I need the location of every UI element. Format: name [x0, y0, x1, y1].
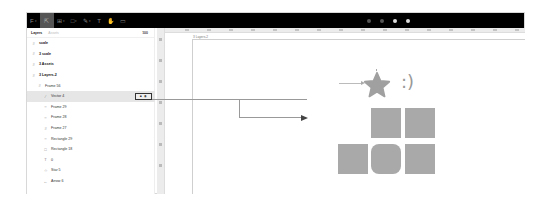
frame-icon: # [43, 126, 48, 131]
zoom-level[interactable]: 100 [142, 31, 148, 35]
layer-item[interactable]: ☆Star 5 [27, 165, 155, 176]
rectangle-shape[interactable] [371, 108, 401, 138]
star-icon[interactable] [363, 71, 391, 99]
vector-icon: ⁄ [43, 94, 48, 99]
move-tool-button[interactable]: ⇱ [40, 13, 54, 28]
design-canvas[interactable]: 3 Layers-2 :) [165, 33, 525, 194]
layer-item[interactable]: ○Frame 29 [27, 102, 155, 113]
layer-actions: ■ ◉ [135, 93, 152, 100]
frame-icon: # [31, 73, 36, 78]
rounded-rectangle-shape[interactable] [371, 144, 401, 174]
hand-tool-button[interactable]: ✋ [104, 13, 117, 28]
component-icon[interactable] [380, 19, 384, 23]
toolbar-center-controls [367, 13, 410, 28]
shape-tool-button[interactable]: □▾ [68, 13, 81, 28]
layer-item[interactable]: #scale [27, 38, 155, 49]
smiley-text[interactable]: :) [401, 71, 414, 92]
layer-item[interactable]: #3 Layers-2 [27, 70, 155, 81]
vertical-ruler[interactable] [157, 28, 165, 194]
comment-tool-button[interactable]: ▭ [117, 13, 129, 28]
connector-line [152, 99, 307, 100]
arrowhead-icon [301, 115, 308, 121]
layer-item[interactable]: ←Arrow 6 [27, 176, 155, 187]
layer-item[interactable]: #3 scale [27, 49, 155, 60]
mask-icon[interactable] [367, 19, 371, 23]
tab-layers[interactable]: Layers [31, 31, 42, 35]
layer-item-selected[interactable]: ⁄Vector 4 ■ ◉ [27, 91, 155, 102]
tab-assets[interactable]: Assets [48, 31, 59, 35]
text-icon: T [43, 157, 48, 162]
layer-item[interactable]: T0 [27, 155, 155, 166]
top-toolbar: F▾ ⇱ ⊞▾ □▾ ✎▾ T ✋ ▭ [27, 13, 524, 28]
frame-icon: # [31, 41, 36, 46]
layer-item[interactable]: #3 Assets [27, 59, 155, 70]
ellipse-icon: ○ [43, 104, 48, 109]
arrow-shape[interactable] [339, 83, 363, 84]
lock-icon[interactable]: ■ [140, 94, 142, 98]
design-app-window: F▾ ⇱ ⊞▾ □▾ ✎▾ T ✋ ▭ Layers Assets 100 #s… [26, 12, 525, 194]
arrow-icon: ← [43, 179, 48, 184]
star-icon: ☆ [43, 168, 48, 173]
frame-tool-button[interactable]: ⊞▾ [54, 13, 68, 28]
rectangle-shape[interactable] [405, 108, 435, 138]
layer-item[interactable]: □Rectangle 18 [27, 144, 155, 155]
frame-edge [192, 39, 525, 40]
text-tool-button[interactable]: T [94, 13, 104, 28]
frame-icon: # [31, 51, 36, 56]
connector-line [239, 99, 240, 117]
frame-icon: # [31, 62, 36, 67]
layer-item[interactable]: ○Frame 28 [27, 112, 155, 123]
layers-panel: Layers Assets 100 #scale #3 scale #3 Ass… [27, 28, 155, 194]
eye-icon[interactable]: ◉ [144, 94, 147, 98]
ellipse-icon: ○ [43, 136, 48, 141]
contrast-icon[interactable] [393, 19, 397, 23]
panel-tabs: Layers Assets 100 [27, 28, 154, 38]
layer-list: #scale #3 scale #3 Assets #3 Layers-2 #F… [27, 38, 155, 186]
ellipse-icon: ○ [43, 115, 48, 120]
frame-icon: # [37, 83, 42, 88]
layer-item[interactable]: #Frame 27 [27, 123, 155, 134]
layer-item[interactable]: ○Rectangle 29 [27, 133, 155, 144]
main-menu-button[interactable]: F▾ [27, 13, 40, 28]
rectangle-shape[interactable] [338, 144, 368, 174]
boolean-icon[interactable] [406, 19, 410, 23]
connector-line [239, 117, 303, 118]
layer-item[interactable]: #Frame 56 [27, 80, 155, 91]
rectangle-shape[interactable] [405, 144, 435, 174]
rectangle-icon: □ [43, 147, 48, 152]
frame-edge [192, 39, 193, 194]
pen-tool-button[interactable]: ✎▾ [80, 13, 94, 28]
